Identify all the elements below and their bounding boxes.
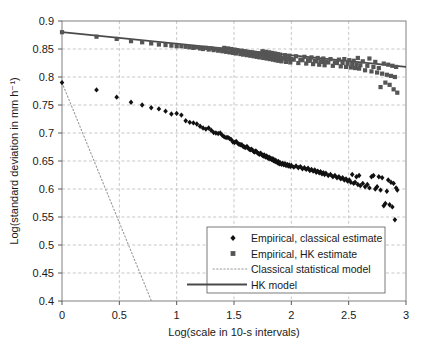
data-point-hk: [94, 35, 98, 39]
data-point-hk: [222, 46, 226, 50]
y-tick-label: 0.55: [33, 211, 54, 223]
data-point-hk: [347, 58, 351, 62]
data-point-classical: [169, 111, 174, 116]
data-point-hk: [115, 37, 119, 41]
data-point-classical: [187, 120, 192, 125]
data-point-hk: [149, 41, 153, 45]
data-point-classical: [183, 118, 188, 123]
data-point-hk: [394, 65, 398, 69]
data-point-classical: [179, 112, 184, 117]
data-point-classical: [191, 120, 196, 125]
data-point-hk: [378, 85, 382, 89]
data-point-classical: [174, 111, 179, 116]
data-point-hk: [129, 39, 133, 43]
data-point-classical: [380, 175, 385, 180]
data-point-hk: [375, 70, 379, 74]
data-point-hk: [388, 83, 392, 87]
y-tick-label: 0.4: [39, 295, 54, 307]
x-tick-labels: 00.511.522.53: [59, 309, 409, 321]
data-point-hk: [365, 64, 369, 68]
y-tick-label: 0.65: [33, 155, 54, 167]
legend-item-label: Classical statistical model: [251, 263, 371, 275]
data-point-hk: [367, 56, 371, 60]
data-point-classical: [350, 172, 355, 177]
y-tick-label: 0.9: [39, 15, 54, 27]
data-point-hk: [60, 30, 64, 34]
data-point-hk: [140, 40, 144, 44]
y-tick-label: 0.8: [39, 71, 54, 83]
legend-square-icon: [231, 251, 236, 256]
y-tick-label: 0.7: [39, 127, 54, 139]
data-point-hk: [395, 91, 399, 95]
data-point-hk: [157, 42, 161, 46]
data-point-classical: [149, 105, 154, 110]
data-point-hk: [363, 68, 367, 72]
data-point-hk: [358, 63, 362, 67]
y-tick-labels: 0.40.450.50.550.60.650.70.750.80.850.9: [33, 15, 54, 307]
data-point-hk: [175, 44, 179, 48]
data-point-hk: [163, 43, 167, 47]
chart-figure: 0.40.450.50.550.60.650.70.750.80.850.9 0…: [0, 0, 422, 353]
data-point-classical: [163, 108, 168, 113]
y-tick-label: 0.5: [39, 239, 54, 251]
chart-canvas: 0.40.450.50.550.60.650.70.750.80.850.9 0…: [0, 0, 422, 353]
data-point-hk: [294, 54, 298, 58]
data-point-hk: [352, 59, 356, 63]
data-point-classical: [377, 174, 382, 179]
data-point-hk: [383, 81, 387, 85]
legend[interactable]: Empirical, classical estimateEmpirical, …: [187, 227, 385, 293]
data-point-hk: [179, 44, 183, 48]
data-point-classical: [114, 94, 119, 99]
data-point-hk: [393, 75, 397, 79]
data-point-hk: [382, 61, 386, 65]
x-tick-label: 1.5: [226, 309, 241, 321]
y-tick-label: 0.45: [33, 267, 54, 279]
y-axis-title: Log(standard deviation in mm h⁻¹): [8, 77, 20, 244]
data-point-hk: [369, 69, 373, 73]
data-point-classical: [60, 80, 65, 85]
x-tick-label: 1: [174, 309, 180, 321]
legend-item-label: Empirical, HK estimate: [251, 248, 357, 260]
data-point-classical: [393, 217, 398, 222]
data-point-hk: [389, 74, 393, 78]
x-tick-label: 0: [59, 309, 65, 321]
data-point-classical: [157, 106, 162, 111]
legend-item[interactable]: Empirical, classical estimate: [230, 232, 382, 244]
data-point-hk: [184, 45, 188, 49]
legend-item-label: HK model: [251, 279, 297, 291]
y-tick-label: 0.75: [33, 99, 54, 111]
data-point-hk: [380, 72, 384, 76]
data-point-hk: [385, 73, 389, 77]
data-point-hk: [392, 87, 396, 91]
data-point-hk: [340, 61, 344, 65]
data-point-hk: [373, 60, 377, 64]
data-point-classical: [378, 187, 383, 192]
x-tick-label: 2: [288, 309, 294, 321]
legend-item-label: Empirical, classical estimate: [251, 232, 382, 244]
x-tick-label: 2.5: [341, 309, 356, 321]
data-point-hk: [342, 57, 346, 61]
data-point-hk: [337, 58, 341, 62]
x-tick-label: 3: [403, 309, 409, 321]
data-point-hk: [302, 55, 306, 59]
data-point-hk: [356, 56, 360, 60]
data-point-hk: [361, 59, 365, 63]
data-point-classical: [140, 102, 145, 107]
data-point-classical: [129, 100, 134, 105]
data-point-hk: [169, 44, 173, 48]
classical-model-line: [62, 83, 151, 301]
data-point-hk: [386, 63, 390, 67]
data-point-hk: [354, 63, 358, 67]
y-tick-label: 0.85: [33, 43, 54, 55]
data-point-hk: [371, 65, 375, 69]
data-point-hk: [377, 66, 381, 70]
data-point-hk: [390, 64, 394, 68]
data-point-hk: [328, 57, 332, 61]
data-point-hk: [188, 45, 192, 49]
data-point-classical: [94, 87, 99, 92]
x-tick-label: 0.5: [112, 309, 127, 321]
x-axis-title: Log(scale in 10-s intervals): [168, 326, 299, 338]
y-tick-label: 0.6: [39, 183, 54, 195]
